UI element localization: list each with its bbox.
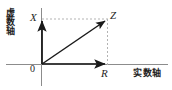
complex-plane-figure: X Z R 0 虚数轴 实数轴	[0, 0, 172, 90]
label-real-axis: 实数轴	[133, 69, 162, 78]
phasor-vector-z	[42, 21, 105, 64]
label-origin: 0	[30, 64, 35, 74]
label-r: R	[101, 68, 108, 79]
label-imaginary-axis: 虚数轴	[5, 8, 14, 35]
label-z: Z	[110, 10, 116, 21]
label-x: X	[30, 12, 37, 23]
